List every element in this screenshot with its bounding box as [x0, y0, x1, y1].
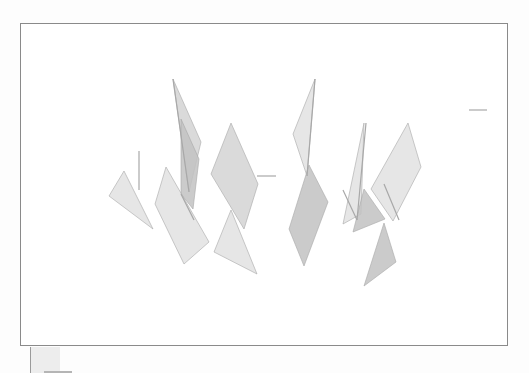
- right-tall-sliver-shape: [293, 79, 315, 176]
- center-lower-triangle-shape: [214, 210, 257, 274]
- right-lower-triangle-shape: [364, 223, 396, 286]
- left-triangle-shape: [109, 171, 153, 229]
- right-diamond-shape: [289, 165, 328, 266]
- below-viewport-panel[interactable]: [30, 347, 60, 373]
- scene-canvas[interactable]: [21, 24, 509, 347]
- canvas-viewport[interactable]: [20, 23, 508, 346]
- center-diamond-shape: [211, 123, 258, 229]
- right-far-diamond-shape: [371, 123, 421, 221]
